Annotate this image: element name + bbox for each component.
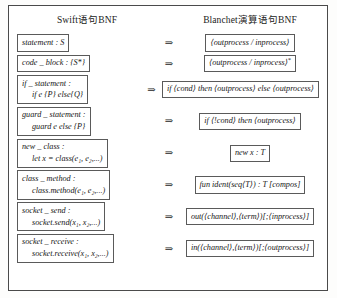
blanchet-bnf-text-class-method: fun ident(seq⟨T⟩) : T [compos] — [200, 180, 301, 189]
figure-border: Swift语句BNF Blanchet演算语句BNF statement : S… — [8, 5, 328, 291]
blanchet-bnf-text-new-class: new x : T — [235, 148, 265, 157]
right-cell-new-class: new x : T — [181, 145, 319, 162]
left-cell-class-method: class _ method : class.method(e₁, e₂,...… — [17, 170, 157, 199]
right-cell-guard-statement: if ⟨!cond⟩ then ⟨outprocess⟩ — [181, 113, 319, 130]
swift-bnf-line2-new-class: let x = class(e₁, e₂,...) — [22, 153, 103, 165]
row-socket-receive: socket _ receive : socket.receive(x₁, x₂… — [17, 234, 319, 263]
blanchet-bnf-box-if-statement: if ⟨cond⟩ then ⟨outprocess⟩ else ⟨outpro… — [162, 81, 319, 98]
bnf-mapping-figure: Swift语句BNF Blanchet演算语句BNF statement : S… — [0, 0, 337, 298]
swift-bnf-box-statement: statement : S — [17, 34, 69, 51]
left-cell-guard-statement: guard _ statement : guard e else {P} — [17, 107, 157, 136]
swift-bnf-line1-class-method: class _ method : — [22, 173, 105, 185]
row-code-block: code _ block : {S*} ⇒ ⟨outprocess / inpr… — [17, 55, 319, 73]
swift-bnf-line1-socket-send: socket _ send : — [22, 205, 100, 217]
right-cell-if-statement: if ⟨cond⟩ then ⟨outprocess⟩ else ⟨outpro… — [162, 81, 319, 98]
right-cell-socket-send: out(⟨channel⟩,⟨term⟩)[;⟨inprocess⟩] — [181, 208, 319, 225]
swift-bnf-line1-guard-statement: guard _ statement : — [22, 109, 86, 121]
left-cell-socket-receive: socket _ receive : socket.receive(x₁, x₂… — [17, 234, 157, 263]
row-new-class: new _ class : let x = class(e₁, e₂,...) … — [17, 139, 319, 168]
swift-bnf-line1-statement: statement : S — [22, 37, 64, 49]
swift-bnf-box-code-block: code _ block : {S*} — [17, 55, 90, 72]
arrow-new-class: ⇒ — [157, 148, 181, 158]
right-cell-class-method: fun ident(seq⟨T⟩) : T [compos] — [181, 176, 319, 193]
swift-bnf-line2-class-method: class.method(e₁, e₂,...) — [22, 185, 105, 197]
swift-bnf-box-socket-receive: socket _ receive : socket.receive(x₁, x₂… — [17, 234, 114, 263]
left-cell-statement: statement : S — [17, 34, 157, 51]
swift-bnf-line1-if-statement: if _ statement : — [22, 78, 83, 90]
swift-bnf-line2-guard-statement: guard e else {P} — [22, 121, 86, 133]
swift-bnf-line2-socket-receive: socket.receive(x₁, x₂,...) — [22, 248, 109, 260]
swift-bnf-box-new-class: new _ class : let x = class(e₁, e₂,...) — [17, 139, 108, 168]
swift-bnf-line1-socket-receive: socket _ receive : — [22, 236, 109, 248]
right-cell-statement: ⟨outprocess / inprocess⟩ — [181, 34, 319, 51]
blanchet-bnf-text-socket-send: out(⟨channel⟩,⟨term⟩)[;⟨inprocess⟩] — [191, 212, 309, 221]
blanchet-bnf-text-if-statement: if ⟨cond⟩ then ⟨outprocess⟩ else ⟨outpro… — [167, 84, 314, 93]
blanchet-bnf-box-class-method: fun ident(seq⟨T⟩) : T [compos] — [195, 176, 306, 193]
left-cell-if-statement: if _ statement : if e {P} else{Q} — [17, 75, 141, 104]
blanchet-bnf-box-guard-statement: if ⟨!cond⟩ then ⟨outprocess⟩ — [199, 113, 300, 130]
row-statement: statement : S ⇒ ⟨outprocess / inprocess⟩ — [17, 34, 319, 52]
blanchet-bnf-text-guard-statement: if ⟨!cond⟩ then ⟨outprocess⟩ — [204, 116, 295, 125]
arrow-class-method: ⇒ — [157, 180, 181, 190]
blanchet-bnf-box-code-block: ⟨outprocess / inprocess⟩* — [204, 55, 296, 72]
swift-bnf-line2-socket-send: socket.send(x₁, x₂,...) — [22, 217, 100, 229]
swift-bnf-line1-new-class: new _ class : — [22, 141, 103, 153]
row-class-method: class _ method : class.method(e₁, e₂,...… — [17, 170, 319, 199]
left-cell-code-block: code _ block : {S*} — [17, 55, 157, 72]
swift-bnf-line2-if-statement: if e {P} else{Q} — [22, 89, 83, 101]
swift-bnf-box-class-method: class _ method : class.method(e₁, e₂,...… — [17, 170, 110, 199]
header-swift-bnf: Swift语句BNF — [17, 12, 157, 26]
left-cell-socket-send: socket _ send : socket.send(x₁, x₂,...) — [17, 202, 157, 231]
blanchet-bnf-text-socket-receive: in(⟨channel⟩,⟨term⟩)[;⟨outprocess⟩] — [191, 243, 309, 252]
swift-bnf-box-guard-statement: guard _ statement : guard e else {P} — [17, 107, 91, 136]
header-blanchet-bnf: Blanchet演算语句BNF — [181, 12, 319, 26]
arrow-statement: ⇒ — [157, 38, 181, 48]
arrow-socket-send: ⇒ — [157, 212, 181, 222]
blanchet-bnf-suffix-code-block: * — [288, 56, 291, 63]
row-guard-statement: guard _ statement : guard e else {P} ⇒ i… — [17, 107, 319, 136]
row-if-statement: if _ statement : if e {P} else{Q} ⇒ if ⟨… — [17, 75, 319, 104]
blanchet-bnf-box-new-class: new x : T — [230, 145, 270, 162]
figure-content: Swift语句BNF Blanchet演算语句BNF statement : S… — [9, 6, 327, 290]
blanchet-bnf-box-statement: ⟨outprocess / inprocess⟩ — [205, 34, 294, 51]
arrow-if-statement: ⇒ — [141, 85, 162, 95]
arrow-code-block: ⇒ — [157, 59, 181, 69]
row-socket-send: socket _ send : socket.send(x₁, x₂,...) … — [17, 202, 319, 231]
swift-bnf-box-socket-send: socket _ send : socket.send(x₁, x₂,...) — [17, 202, 105, 231]
blanchet-bnf-text-code-block: ⟨outprocess / inprocess⟩ — [209, 58, 288, 67]
mapping-rows: statement : S ⇒ ⟨outprocess / inprocess⟩… — [17, 34, 319, 263]
swift-bnf-box-if-statement: if _ statement : if e {P} else{Q} — [17, 75, 88, 104]
left-cell-new-class: new _ class : let x = class(e₁, e₂,...) — [17, 139, 157, 168]
blanchet-bnf-box-socket-receive: in(⟨channel⟩,⟨term⟩)[;⟨outprocess⟩] — [186, 240, 314, 257]
arrow-guard-statement: ⇒ — [157, 116, 181, 126]
blanchet-bnf-box-socket-send: out(⟨channel⟩,⟨term⟩)[;⟨inprocess⟩] — [186, 208, 314, 225]
right-cell-code-block: ⟨outprocess / inprocess⟩* — [181, 55, 319, 72]
swift-bnf-line1-code-block: code _ block : {S*} — [22, 57, 85, 69]
arrow-socket-receive: ⇒ — [157, 244, 181, 254]
column-headers: Swift语句BNF Blanchet演算语句BNF — [17, 12, 319, 32]
right-cell-socket-receive: in(⟨channel⟩,⟨term⟩)[;⟨outprocess⟩] — [181, 240, 319, 257]
blanchet-bnf-text-statement: ⟨outprocess / inprocess⟩ — [210, 38, 289, 47]
